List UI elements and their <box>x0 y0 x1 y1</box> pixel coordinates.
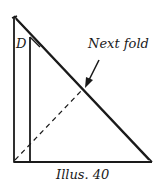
arrow-icon <box>85 60 99 88</box>
next-fold-label: Next fold <box>88 36 149 51</box>
fold-diagram <box>0 0 162 193</box>
dashed-next-fold-line <box>15 90 82 160</box>
point-label-d: D <box>16 36 26 51</box>
illustration-caption: Illus. 40 <box>56 167 109 182</box>
